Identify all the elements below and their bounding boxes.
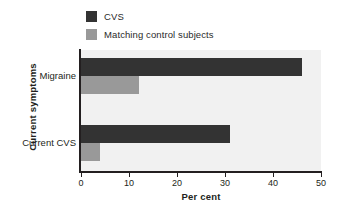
x-tick-label-50: 50 <box>316 178 326 188</box>
chart-legend: CVS Matching control subjects <box>86 9 286 45</box>
bar-chart: CVS Matching control subjects 0102030405… <box>0 0 337 208</box>
legend-label-cvs: CVS <box>104 11 124 22</box>
x-tick-label-20: 20 <box>172 178 182 188</box>
x-tick-50 <box>321 173 322 177</box>
x-tick-label-30: 30 <box>220 178 230 188</box>
x-tick-10 <box>129 173 130 177</box>
bar-current-cvs-matching-control-subjects <box>81 143 100 161</box>
x-tick-label-40: 40 <box>268 178 278 188</box>
x-tick-40 <box>273 173 274 177</box>
legend-swatch-cvs <box>86 11 97 22</box>
legend-label-matching-control-subjects: Matching control subjects <box>104 29 214 40</box>
bar-migraine-matching-control-subjects <box>81 76 139 94</box>
legend-swatch-matching-control-subjects <box>86 29 97 40</box>
y-axis-line <box>79 49 81 173</box>
bar-current-cvs-cvs <box>81 125 230 143</box>
x-tick-0 <box>81 173 82 177</box>
legend-item-cvs: CVS <box>86 9 286 24</box>
x-tick-30 <box>225 173 226 177</box>
x-tick-20 <box>177 173 178 177</box>
y-axis-title: Current symptoms <box>26 46 40 168</box>
x-axis-line <box>79 171 322 173</box>
bar-migraine-cvs <box>81 58 302 76</box>
x-axis-title: Per cent <box>81 191 321 202</box>
x-tick-label-0: 0 <box>78 178 83 188</box>
x-tick-label-10: 10 <box>124 178 134 188</box>
legend-item-matching-control-subjects: Matching control subjects <box>86 27 286 42</box>
